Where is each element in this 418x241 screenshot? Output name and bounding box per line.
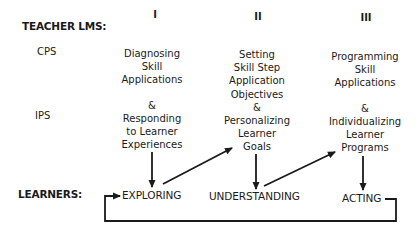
- feedback-loop-icon: [105, 196, 396, 221]
- flow-arrows: [0, 0, 418, 241]
- arrow-diagonal-icon: [264, 152, 335, 186]
- arrow-diagonal-icon: [163, 148, 232, 184]
